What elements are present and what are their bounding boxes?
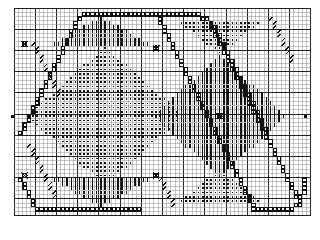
dot-symbol <box>104 124 106 126</box>
dot-symbol <box>92 69 94 71</box>
dot-symbol <box>210 43 212 45</box>
dot-symbol <box>236 35 238 37</box>
dot-symbol <box>227 200 229 202</box>
dot-symbol <box>75 77 77 79</box>
dot-symbol <box>100 153 102 155</box>
dot-symbol <box>121 81 123 83</box>
dot-symbol <box>253 22 255 24</box>
dot-symbol <box>104 73 106 75</box>
dot-symbol <box>96 77 98 79</box>
dot-symbol <box>147 111 149 113</box>
dot-symbol <box>113 86 115 88</box>
dot-symbol <box>45 120 47 122</box>
dot-symbol <box>109 81 111 83</box>
dot-symbol <box>134 128 136 130</box>
dot-symbol <box>96 94 98 96</box>
dot-symbol <box>100 94 102 96</box>
dot-symbol <box>164 98 166 100</box>
dot-symbol <box>236 192 238 194</box>
dot-symbol <box>83 132 85 134</box>
dot-symbol <box>62 98 64 100</box>
dot-symbol <box>232 22 234 24</box>
dot-symbol <box>62 120 64 122</box>
dot-symbol <box>121 115 123 117</box>
dot-symbol <box>126 124 128 126</box>
dot-symbol <box>45 128 47 130</box>
dot-symbol <box>151 141 153 143</box>
dot-symbol <box>66 141 68 143</box>
dot-symbol <box>113 120 115 122</box>
dot-symbol <box>232 179 234 181</box>
dot-symbol <box>104 81 106 83</box>
dot-symbol <box>126 98 128 100</box>
dot-symbol <box>36 124 38 126</box>
dot-symbol <box>155 120 157 122</box>
dot-symbol <box>117 60 119 62</box>
dot-symbol <box>117 124 119 126</box>
dot-symbol <box>58 111 60 113</box>
dot-symbol <box>83 90 85 92</box>
dot-symbol <box>113 115 115 117</box>
dot-symbol <box>155 94 157 96</box>
dot-symbol <box>70 153 72 155</box>
dot-symbol <box>130 132 132 134</box>
dot-symbol <box>130 158 132 160</box>
dot-symbol <box>109 60 111 62</box>
dot-symbol <box>121 69 123 71</box>
dot-symbol <box>70 90 72 92</box>
dot-symbol <box>244 196 246 198</box>
dot-symbol <box>41 111 43 113</box>
dot-symbol <box>227 35 229 37</box>
dot-symbol <box>53 107 55 109</box>
dot-symbol <box>219 47 221 49</box>
dot-symbol <box>126 128 128 130</box>
dot-symbol <box>138 90 140 92</box>
dot-symbol <box>155 128 157 130</box>
dot-symbol <box>147 98 149 100</box>
dot-symbol <box>121 111 123 113</box>
dot-symbol <box>121 145 123 147</box>
dot-symbol <box>219 39 221 41</box>
dot-symbol <box>53 111 55 113</box>
dot-symbol <box>109 132 111 134</box>
dot-symbol <box>109 86 111 88</box>
dot-symbol <box>240 22 242 24</box>
dot-symbol <box>96 170 98 172</box>
dot-symbol <box>49 120 51 122</box>
dot-symbol <box>79 98 81 100</box>
dot-symbol <box>126 136 128 138</box>
dot-symbol <box>215 196 217 198</box>
dot-symbol <box>113 166 115 168</box>
dot-symbol <box>126 90 128 92</box>
dot-symbol <box>36 120 38 122</box>
dot-symbol <box>227 43 229 45</box>
dot-symbol <box>215 187 217 189</box>
dot-symbol <box>66 132 68 134</box>
dot-symbol <box>96 81 98 83</box>
dot-symbol <box>142 149 144 151</box>
dot-symbol <box>151 98 153 100</box>
dot-symbol <box>236 183 238 185</box>
dot-symbol <box>227 192 229 194</box>
dot-symbol <box>121 103 123 105</box>
dot-symbol <box>92 107 94 109</box>
dot-symbol <box>104 111 106 113</box>
dot-symbol <box>92 128 94 130</box>
dot-symbol <box>109 120 111 122</box>
dot-symbol <box>253 196 255 198</box>
dot-symbol <box>66 124 68 126</box>
dot-symbol <box>113 56 115 58</box>
dot-symbol <box>87 136 89 138</box>
dot-symbol <box>117 120 119 122</box>
dot-symbol <box>227 30 229 32</box>
dot-symbol <box>96 60 98 62</box>
dot-symbol <box>75 153 77 155</box>
dot-symbol <box>193 30 195 32</box>
dot-symbol <box>92 124 94 126</box>
dot-symbol <box>79 111 81 113</box>
dot-symbol <box>223 39 225 41</box>
dot-symbol <box>189 26 191 28</box>
dot-symbol <box>130 103 132 105</box>
dot-symbol <box>185 22 187 24</box>
dot-symbol <box>223 30 225 32</box>
